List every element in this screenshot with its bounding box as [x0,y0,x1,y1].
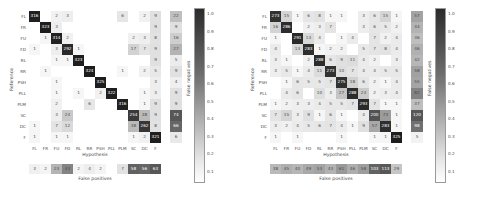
matrix-cell: 288 [314,55,325,66]
matrix-cell [73,77,84,88]
matrix-cell: 1 [270,33,281,44]
colorbar-tick: 0.4 [448,116,455,121]
matrix-row: 11112321 [29,132,161,143]
matrix-cell [270,77,281,88]
matrix-cell: 6 [369,11,380,22]
matrix-cell: 1 [325,11,336,22]
false-positives-row: 38454049534361465810311329 [270,164,402,174]
matrix-cell: 6 [292,77,303,88]
matrix-cell [106,44,117,55]
matrix-cell [281,44,292,55]
matrix-cell: 2 [139,66,150,77]
matrix-cell: 316 [117,99,128,110]
matrix-cell: 5 [380,66,391,77]
col-label-rl: RL [73,146,84,151]
false-negatives-cell: 37 [411,99,423,110]
matrix-cell: 2 [139,11,150,22]
matrix-cell: 323 [73,55,84,66]
matrix-row: 4132831225784 [270,44,402,55]
matrix-cell [95,33,106,44]
colorbar [435,8,446,183]
matrix-row: 13253 [29,77,161,88]
matrix-cell: 3 [62,11,73,22]
col-label-fu: FU [51,146,62,151]
matrix-cell: 9 [303,110,314,121]
col-label-f: F [391,146,402,151]
matrix-cell [117,121,128,132]
false-positives-cell: 46 [347,164,358,174]
false-positives-cell: 23 [51,164,62,174]
matrix-cell [347,44,358,55]
matrix-cell: 1 [281,55,292,66]
matrix-cell [106,66,117,77]
false-negatives-title: False negatives [186,61,191,96]
false-negatives-cell: 46 [411,44,423,55]
matrix-cell: 5 [336,99,347,110]
matrix-cell: 325 [95,77,106,88]
matrix-cell [347,132,358,143]
false-negatives-cell: 5 [411,132,423,143]
row-label-pll: PLL [248,91,267,96]
false-positives-cell: 3 [29,164,40,174]
false-positives-cell: 103 [369,164,380,174]
matrix-cell: 2 [369,77,380,88]
matrix-cell: 3 [139,33,150,44]
matrix-cell: 291 [292,33,303,44]
matrix-cell: 1 [336,33,347,44]
matrix-cell: 4 [347,33,358,44]
matrix-cell: 3 [391,55,402,66]
matrix-cell: 18 [347,77,358,88]
false-negatives-cell: 66 [170,121,182,132]
row-label-fd: FD [7,47,26,52]
matrix-cell: 2 [128,33,139,44]
row-label-plm: PLM [248,102,267,107]
matrix-cell [106,77,117,88]
matrix-cell [117,88,128,99]
matrix-cell: 323 [40,22,51,33]
matrix-cell: 6 [117,11,128,22]
row-label-plm: PLM [7,102,26,107]
matrix-cell [358,33,369,44]
matrix-cell: 3 [358,11,369,22]
matrix-cell: 1 [62,55,73,66]
matrix-cell [117,77,128,88]
col-label-psh: PSH [95,146,106,151]
false-positives-cell: 2 [95,164,106,174]
matrix-cell: 275 [336,77,347,88]
matrix-cell: 1 [29,121,40,132]
matrix-cell: 24 [62,110,73,121]
matrix-cell: 4 [391,33,402,44]
matrix-cell: 314 [51,33,62,44]
col-label-dc: DC [139,146,150,151]
matrix-row: 715391614200731 [270,110,402,121]
matrix-cell: 4 [270,44,281,55]
row-label-sc: SC [7,113,26,118]
matrix-cell: 8 [314,11,325,22]
matrix-cell [62,99,73,110]
matrix-row: 2631619 [29,99,161,110]
matrix-cell [62,22,73,33]
matrix-cell: 2 [51,11,62,22]
matrix-cell [40,88,51,99]
matrix-cell: 2 [281,99,292,110]
false-positives-cell: 38 [270,164,281,174]
matrix-cell: 2 [95,88,106,99]
matrix-cell: 2 [380,33,391,44]
false-positives-cell: 43 [62,164,73,174]
matrix-cell [128,66,139,77]
col-label-pll: PLL [106,146,117,151]
y-axis-title: Reference [9,68,14,91]
colorbar [194,8,205,183]
matrix-cell [84,55,95,66]
matrix-cell: 9 [150,44,161,55]
matrix-cell: 9 [150,22,161,33]
colorbar-tick: 0.5 [207,99,214,104]
false-negatives-column: 22916275949974666 [170,11,182,143]
matrix-cell: 4 [292,121,303,132]
colorbar-tick: 0.3 [448,134,455,139]
matrix-cell: 3 [51,44,62,55]
matrix-cell: 1 [391,121,402,132]
col-label-rr: RR [325,146,336,151]
matrix-cell [270,88,281,99]
col-label-fl: FL [29,146,40,151]
